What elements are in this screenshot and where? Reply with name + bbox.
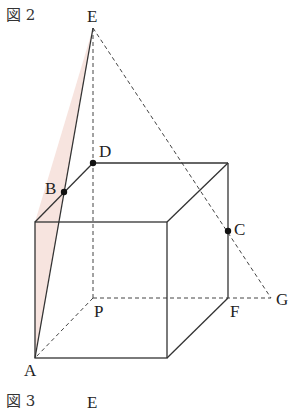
- label-d: D: [99, 143, 111, 160]
- label-b: B: [45, 180, 56, 197]
- figure3-title: 図 3: [6, 394, 35, 409]
- point-d: [90, 160, 96, 166]
- label-e: E: [87, 8, 97, 25]
- label-f: F: [230, 303, 239, 320]
- point-c: [225, 228, 231, 234]
- point-b: [61, 189, 67, 195]
- label-g: G: [276, 291, 288, 308]
- label-c: C: [234, 221, 245, 238]
- figure3-label-e: E: [87, 394, 97, 411]
- label-a: A: [24, 362, 36, 379]
- label-p: P: [94, 303, 103, 320]
- cube-diagram: [0, 0, 292, 413]
- figure2-title: 図 2: [6, 8, 35, 23]
